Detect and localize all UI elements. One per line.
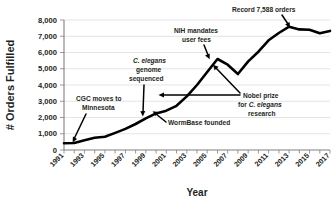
y-tick-label: 8,000: [38, 16, 57, 25]
annotation-line: sequenced: [129, 75, 163, 83]
y-tick-label: 2,000: [38, 113, 57, 122]
annotation-text-pre: for: [238, 101, 249, 108]
annotation-line: NIH mandates: [174, 27, 218, 34]
y-tick-label: 5,000: [38, 64, 57, 73]
annotation-line: Nobel prize: [243, 92, 279, 100]
annotation-line: user fees: [182, 36, 211, 43]
y-tick-label: 7,000: [38, 32, 57, 41]
annotation-arrow-genome: [143, 85, 144, 112]
annotation-italic-species: C. elegans: [249, 101, 282, 109]
annotation-line: genome: [136, 66, 162, 74]
annotation-line: CGC moves to: [76, 95, 121, 102]
annotation-line: C. elegans: [133, 57, 166, 65]
y-tick-label: 6,000: [38, 48, 57, 57]
annotation-line: Record 7,588 orders: [232, 6, 296, 14]
annotation-line: WormBase founded: [168, 119, 230, 126]
y-tick-label: 4,000: [38, 81, 57, 90]
chart-container: 8,000 7,000 6,000 5,000 4,000 3,000 2,00…: [0, 0, 335, 205]
y-axis-title: # Orders Fulfilled: [4, 40, 16, 130]
y-tick-label: 3,000: [38, 97, 57, 106]
annotation-line: for C. elegans: [238, 101, 282, 109]
y-tick-labels: 8,000 7,000 6,000 5,000 4,000 3,000 2,00…: [38, 16, 57, 155]
orders-fulfilled-line-chart: 8,000 7,000 6,000 5,000 4,000 3,000 2,00…: [0, 0, 335, 205]
y-tick-label: 1,000: [38, 129, 57, 138]
annotation-line: research: [248, 110, 276, 117]
x-axis-title: Year: [186, 187, 207, 198]
annotation-italic-species: C. elegans: [133, 57, 166, 65]
annotation-line: Minnesota: [82, 104, 115, 111]
